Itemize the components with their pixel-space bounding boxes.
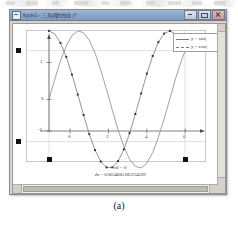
handle-xend[interactable] xyxy=(183,157,188,162)
legend-label-sine: y = sin( xyxy=(191,35,206,43)
scroll-right-arrow-icon[interactable] xyxy=(209,185,218,193)
figure-window[interactable]: figure1 - 三角函数曲线 y* xyxy=(9,9,227,195)
window-title: figure1 - 三角函数曲线 y* xyxy=(23,12,184,19)
vertical-scrollbar[interactable] xyxy=(217,24,225,185)
legend-label-cosine: y = cos( xyxy=(191,43,207,51)
window-titlebar[interactable]: figure1 - 三角函数曲线 y* xyxy=(10,10,226,21)
ytick-label-neg1: -1 xyxy=(38,127,42,132)
handle-top-left[interactable] xyxy=(16,48,21,53)
xtick-label-6: 6 xyxy=(183,134,186,139)
horizontal-scrollbar[interactable] xyxy=(13,184,218,193)
series-sine-curve xyxy=(49,31,185,168)
ytick-label-0: 0 xyxy=(41,96,44,101)
legend-entry-cosine[interactable]: y = cos( xyxy=(176,43,218,51)
maximize-button[interactable] xyxy=(198,10,211,20)
note-x0: x0 = 0 xyxy=(13,165,218,170)
plot-legend[interactable]: y = sin( y = cos( xyxy=(173,33,218,52)
legend-swatch-cosine xyxy=(176,47,189,48)
scan-noise-strip xyxy=(0,0,238,7)
figure-window-icon xyxy=(12,11,21,20)
scrollbar-corner xyxy=(218,185,225,193)
ytick-label-1: 1 xyxy=(40,59,43,64)
series-cosine-curve xyxy=(49,31,185,168)
plot-canvas[interactable]: 1 0 -1 0 2 4 6 y = sin(x) y = sin( y = c… xyxy=(13,24,218,185)
scroll-up-arrow-icon[interactable] xyxy=(218,24,225,32)
close-button[interactable] xyxy=(212,10,225,20)
horizontal-scroll-thumb[interactable] xyxy=(23,186,208,192)
handle-x0[interactable] xyxy=(47,157,52,162)
xtick-label-4: 4 xyxy=(145,134,148,139)
xtick-label-0: 0 xyxy=(68,134,71,139)
window-controls xyxy=(184,10,225,20)
handle-bottom-left[interactable] xyxy=(16,139,21,144)
legend-entry-sine[interactable]: y = sin( xyxy=(176,35,218,43)
figure-client-area: 1 0 -1 0 2 4 6 y = sin(x) y = sin( y = c… xyxy=(12,23,226,194)
figure-caption: (a) xyxy=(0,200,238,211)
note-dx: dx = 0.0034665185254339 xyxy=(13,172,218,177)
scroll-left-arrow-icon[interactable] xyxy=(13,185,22,193)
minimize-button[interactable] xyxy=(184,10,197,20)
xtick-label-2: 2 xyxy=(106,134,109,139)
scroll-down-arrow-icon[interactable] xyxy=(218,177,225,185)
legend-swatch-sine xyxy=(176,39,189,40)
